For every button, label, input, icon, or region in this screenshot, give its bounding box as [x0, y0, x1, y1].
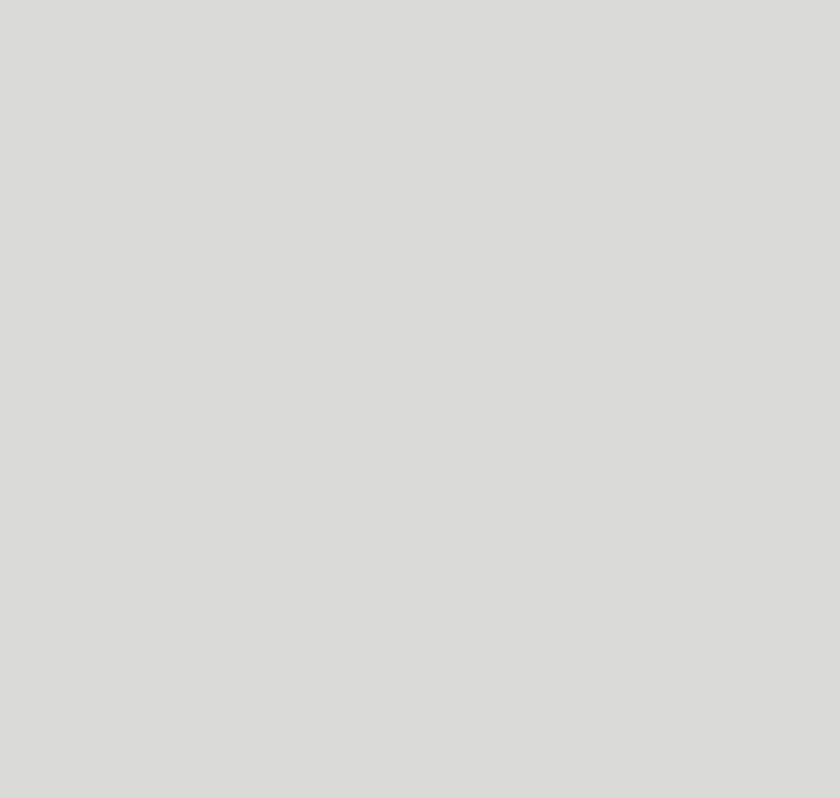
- kitchen-floor-plan: [0, 0, 840, 798]
- floor-polygon: [48, 19, 764, 26]
- floor-area: [49, 19, 764, 27]
- floor-boundary: [48, 19, 764, 26]
- white-floor-area: [49, 19, 764, 26]
- floor-outline: [50, 19, 773, 27]
- kitchen-floor-outline: [49, 19, 764, 26]
- outer-boundary: [48, 19, 764, 27]
- floor-shape: [49, 19, 764, 26]
- kitchen-floor-fill: [49, 19, 764, 26]
- outer-wall: [49, 19, 765, 27]
- outer-floor: [49, 19, 764, 27]
- outer-floor-polygon: [49, 19, 764, 26]
- kitchen-floor-main: [48, 19, 764, 26]
- floor-boundary-main: [48, 19, 764, 26]
- floor-outline: [50, 19, 770, 27]
- building-outline: [50, 19, 782, 26]
- kitchen-floor: [48, 19, 764, 26]
- building-outline: [50, 20, 382, 25]
- floor: [48, 19, 765, 26]
- outer-floor-shape: [48, 19, 764, 26]
- floor-white: [49, 19, 764, 26]
- building-outline: [48, 19, 773, 26]
- outer-floor-main: [48, 19, 764, 26]
